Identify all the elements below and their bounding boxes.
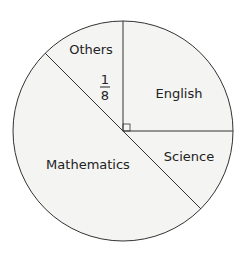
- label-science: Science: [164, 149, 214, 164]
- label-english: English: [156, 86, 203, 101]
- fraction-denominator: 8: [101, 88, 109, 103]
- label-others: Others: [69, 42, 113, 57]
- fraction-numerator: 1: [101, 72, 109, 87]
- pie-chart: Others 1 8 English Science Mathematics: [0, 0, 250, 255]
- label-mathematics: Mathematics: [46, 157, 130, 172]
